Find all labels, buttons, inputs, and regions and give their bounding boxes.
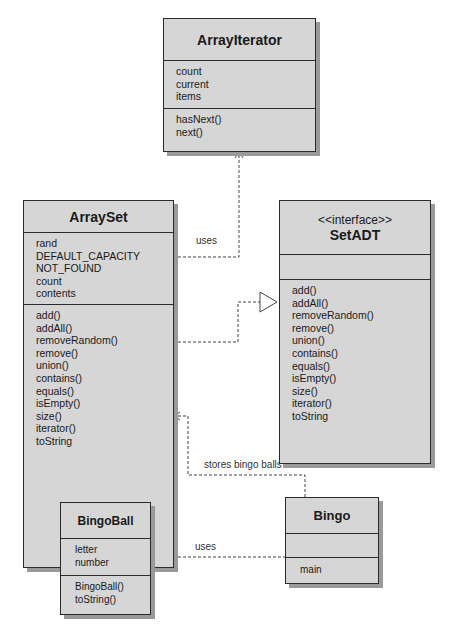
- method: removeRandom(): [292, 309, 430, 322]
- class-bingoball[interactable]: BingoBall letter number BingoBall() toSt…: [60, 502, 151, 615]
- method: isEmpty(): [292, 372, 430, 385]
- method: union(): [36, 359, 173, 372]
- class-header: <<interface>> SetADT: [280, 201, 430, 255]
- attributes-section: [286, 534, 378, 558]
- class-bingo[interactable]: Bingo main: [285, 497, 379, 584]
- method: next(): [176, 126, 315, 139]
- method: add(): [292, 284, 430, 297]
- method: contains(): [36, 372, 173, 385]
- methods-section: add() addAll() removeRandom() remove() u…: [24, 305, 173, 448]
- attributes-section: count current items: [164, 61, 315, 109]
- method: addAll(): [292, 297, 430, 310]
- arrowhead-setadt-realization: [260, 292, 277, 312]
- methods-section: main: [286, 558, 378, 577]
- method: BingoBall(): [75, 580, 150, 593]
- class-name: BingoBall: [61, 503, 150, 539]
- attribute: contents: [36, 287, 173, 300]
- method: remove(): [36, 347, 173, 360]
- method: add(): [36, 309, 173, 322]
- class-arrayiterator[interactable]: ArrayIterator count current items hasNex…: [163, 18, 316, 152]
- method: iterator(): [36, 422, 173, 435]
- method: equals(): [36, 385, 173, 398]
- method: hasNext(): [176, 113, 315, 126]
- method: toString: [36, 435, 173, 448]
- method: size(): [36, 410, 173, 423]
- attribute: number: [75, 556, 150, 569]
- method: remove(): [292, 322, 430, 335]
- method: toString: [292, 410, 430, 423]
- attributes-section: letter number: [61, 539, 150, 576]
- class-name: Bingo: [286, 498, 378, 534]
- method: size(): [292, 385, 430, 398]
- method: contains(): [292, 347, 430, 360]
- methods-section: BingoBall() toString(): [61, 576, 150, 606]
- class-name: ArraySet: [24, 201, 173, 233]
- method: union(): [292, 334, 430, 347]
- attribute: count: [36, 275, 173, 288]
- method: toString(): [75, 593, 150, 606]
- method: addAll(): [36, 322, 173, 335]
- methods-section: hasNext() next(): [164, 109, 315, 138]
- method: equals(): [292, 360, 430, 373]
- attribute: DEFAULT_CAPACITY: [36, 250, 173, 263]
- attribute: letter: [75, 543, 150, 556]
- attribute: count: [176, 65, 315, 78]
- attributes-section: [280, 255, 430, 280]
- stereotype: <<interface>>: [280, 213, 430, 227]
- attribute: items: [176, 90, 315, 103]
- class-name: SetADT: [280, 227, 430, 243]
- attribute: current: [176, 78, 315, 91]
- method: main: [300, 564, 378, 577]
- label-uses-arrayiterator: uses: [196, 235, 217, 246]
- method: iterator(): [292, 397, 430, 410]
- link-arrayset-realizes-setadt: [173, 302, 260, 342]
- method: isEmpty(): [36, 397, 173, 410]
- methods-section: add() addAll() removeRandom() remove() u…: [280, 280, 430, 423]
- attribute: rand: [36, 237, 173, 250]
- class-setadt[interactable]: <<interface>> SetADT add() addAll() remo…: [279, 200, 431, 464]
- method: removeRandom(): [36, 334, 173, 347]
- label-uses-bingoball: uses: [195, 541, 216, 552]
- class-name: ArrayIterator: [164, 19, 315, 61]
- attribute: NOT_FOUND: [36, 262, 173, 275]
- attributes-section: rand DEFAULT_CAPACITY NOT_FOUND count co…: [24, 233, 173, 305]
